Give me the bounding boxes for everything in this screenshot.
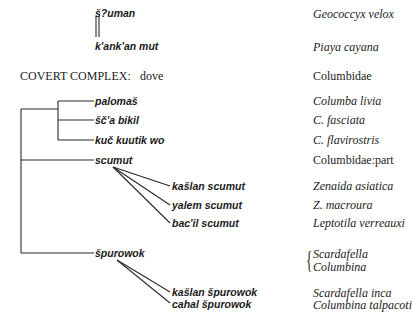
- sci-z-macroura: Z. macroura: [313, 199, 373, 212]
- term-s-uman: š?uman: [95, 7, 135, 19]
- term-sca-bikil: šč'a bikil: [95, 114, 139, 126]
- term-spurowok: špurowok: [95, 247, 145, 259]
- term-kuc-kuutik-wo: kuč kuutik wo: [95, 134, 164, 146]
- sci-columbina-talpacoti: Columbina talpacoti: [313, 299, 412, 312]
- term-cahal-spurowok: cahal špurowok: [172, 298, 251, 310]
- sci-columbidae: Columbidae: [313, 69, 372, 83]
- covert-complex-label: COVERT COMPLEX:: [20, 69, 131, 83]
- sci-zenaida-asiatica: Zenaida asiatica: [313, 180, 393, 193]
- sci-geococcyx-velox: Geococcyx velox: [313, 8, 394, 21]
- term-kankan-mut: k'ank'an mut: [95, 40, 158, 52]
- term-kaslan-scumut: kašlan scumut: [172, 180, 245, 192]
- term-bacil-scumut: bac'il scumut: [172, 217, 239, 229]
- sci-c-fasciata: C. fasciata: [313, 114, 365, 127]
- brace-icon: {: [306, 247, 312, 273]
- term-scumut: scumut: [95, 154, 132, 166]
- term-kaslan-spurowok: kašlan špurowok: [172, 286, 257, 298]
- covert-complex-value: dove: [140, 69, 163, 83]
- sci-columba-livia: Columba livia: [313, 95, 381, 108]
- sci-columbidae-part: Columbidae:part: [313, 154, 394, 167]
- sci-columbina: Columbina: [313, 261, 366, 274]
- term-palomas: palomaš: [95, 95, 138, 107]
- sci-c-flavirostris: C. flavirostris: [313, 134, 379, 147]
- sci-leptotila-verreauxi: Leptotila verreauxi: [313, 217, 405, 230]
- term-yalem-scumut: yalem scumut: [172, 199, 242, 211]
- sci-piaya-cayana: Piaya cayana: [313, 41, 379, 54]
